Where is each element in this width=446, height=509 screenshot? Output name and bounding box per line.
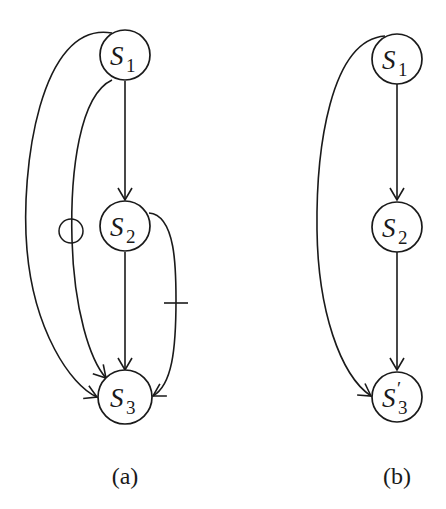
node-prime: ′ [397,378,401,399]
edge-a-s1-s3-outer [26,32,112,397]
node-a-s2: S 2 [100,201,150,251]
edge-a-s2-s3-right [149,213,176,396]
panel-b-caption: (b) [383,463,411,489]
node-letter: S [110,41,124,71]
node-letter: S [382,383,396,413]
node-subscript: 3 [398,397,408,418]
diagram-canvas: S 1 S 2 S 3 (a) S 1 S [0,0,446,509]
panel-a-caption: (a) [112,463,139,489]
node-letter: S [110,212,124,242]
node-subscript: 1 [126,55,136,76]
node-letter: S [382,45,396,75]
node-a-s1: S 1 [100,30,150,80]
node-subscript: 3 [126,397,136,418]
node-letter: S [382,213,396,243]
panel-b: S 1 S 2 S 3 ′ (b) [317,34,422,489]
node-b-s2: S 2 [372,202,422,252]
node-letter: S [110,383,124,413]
node-a-s3: S 3 [98,370,152,424]
node-subscript: 2 [398,227,408,248]
node-b-s3-prime: S 3 ′ [372,372,422,422]
panel-a: S 1 S 2 S 3 (a) [26,30,188,489]
node-subscript: 1 [398,59,408,80]
node-subscript: 2 [126,226,136,247]
node-b-s1: S 1 [372,34,422,84]
